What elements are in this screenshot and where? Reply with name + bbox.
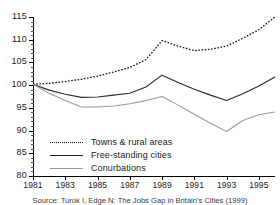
series-line [33, 17, 275, 84]
source-caption: Source: Turok I, Edge N: The Jobs Gap in… [0, 196, 280, 205]
legend: Towns & rural areas Free-standing cities… [50, 137, 172, 176]
chart-figure: 80859095100105110115 1981198319851987198… [0, 0, 280, 205]
legend-label: Free-standing cities [91, 150, 172, 161]
legend-label: Conurbations [91, 163, 146, 174]
legend-label: Towns & rural areas [91, 137, 172, 148]
series-line [33, 75, 275, 100]
legend-item-conurbations: Conurbations [50, 163, 172, 174]
legend-line-dotted-icon [50, 138, 83, 147]
legend-line-solid-light-icon [50, 164, 83, 173]
series-line [33, 84, 275, 131]
legend-item-free-standing-cities: Free-standing cities [50, 150, 172, 161]
legend-line-solid-dark-icon [50, 151, 83, 160]
legend-item-towns-rural-areas: Towns & rural areas [50, 137, 172, 148]
